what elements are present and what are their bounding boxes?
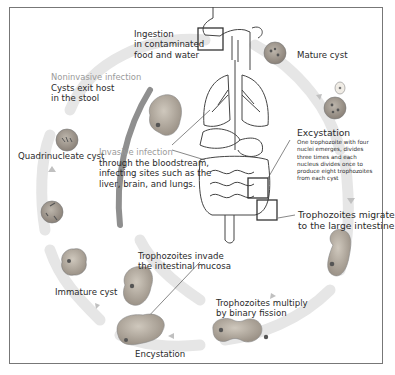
excysting-cyst: [324, 82, 346, 119]
dividing-trophozoites: [213, 318, 268, 342]
noninvasive-cyst: [56, 129, 78, 151]
quadrinucleate-cyst: [41, 201, 63, 223]
excystation-text: One trophozoite with four nuclei emerges…: [297, 139, 372, 183]
noninvasive-infection-heading: Noninvasive infection: [51, 72, 141, 82]
encystation-label: Encystation: [135, 349, 185, 359]
invade-label: Trophozoites invade the intestinal mucos…: [138, 251, 231, 272]
invasive-trophozoite: [149, 95, 181, 136]
invasive-infection-heading: Invasive infection: [99, 147, 173, 157]
invasive-infection-text: through the bloodstream, infecting sites…: [99, 158, 211, 189]
migrating-trophozoite: [328, 229, 351, 276]
mature-cyst-label: Mature cyst: [297, 50, 348, 60]
binary-fission-label: Trophozoites multiply by binary fission: [216, 298, 308, 319]
ingestion-label: Ingestion in contaminated food and water: [134, 29, 204, 60]
immature-cyst: [62, 249, 87, 276]
mature-cyst: [264, 42, 286, 64]
migrate-label: Trophozoites migrate to the large intest…: [298, 209, 395, 231]
excystation-heading: Excystation: [297, 127, 350, 138]
noninvasive-infection-text: Cysts exit host in the stool: [51, 83, 114, 104]
invading-trophozoite: [123, 267, 152, 306]
quadrinucleate-cyst-label: Quadrinucleate cyst: [18, 151, 104, 161]
immature-cyst-label: Immature cyst: [55, 287, 117, 297]
